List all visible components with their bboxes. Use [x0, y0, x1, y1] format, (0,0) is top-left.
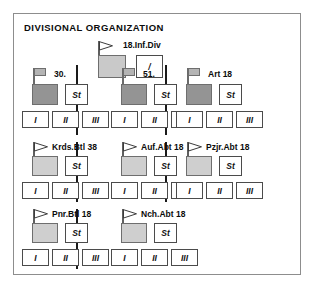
battalion-box: III	[82, 182, 109, 199]
independent-unit-hq-box	[121, 223, 147, 243]
regiment-label: 30.	[54, 69, 66, 79]
regiment-staff-box: St	[65, 84, 88, 105]
pennant-flag-icon	[33, 142, 50, 156]
pennant-flag-icon	[33, 209, 50, 223]
battalion-box: I	[176, 111, 203, 128]
battalion-box: II	[141, 249, 168, 266]
divisional-organization-panel: DIVISIONAL ORGANIZATION 18.Inf.Div / 30.…	[13, 13, 301, 275]
battalion-box: I	[22, 111, 49, 128]
battalion-box: III	[171, 249, 198, 266]
battalion-box: III	[82, 111, 109, 128]
independent-unit-staff-box: St	[154, 156, 177, 176]
pennant-flag-icon	[98, 41, 115, 55]
pennant-flag-icon	[122, 209, 139, 223]
battalion-box: III	[236, 111, 263, 128]
pennant-flag-icon	[122, 142, 139, 156]
regiment-hq-box	[186, 84, 212, 105]
battalion-box: I	[111, 182, 138, 199]
division-label: 18.Inf.Div	[123, 40, 161, 50]
independent-unit-staff-box: St	[219, 156, 242, 176]
independent-unit-staff-box: St	[154, 223, 177, 243]
page-title: DIVISIONAL ORGANIZATION	[24, 22, 164, 33]
regiment-staff-box: St	[154, 84, 177, 105]
regiment-hq-box	[32, 84, 58, 105]
independent-unit-staff-box: St	[65, 223, 88, 243]
battalion-box: I	[22, 249, 49, 266]
independent-unit-label: Krds.Btl 38	[52, 142, 97, 152]
battalion-box: I	[176, 182, 203, 199]
battalion-box: I	[111, 249, 138, 266]
independent-unit-label: Auf.Abt 18	[141, 142, 184, 152]
battalion-box: II	[141, 111, 168, 128]
battalion-box: II	[52, 111, 79, 128]
independent-unit-hq-box	[121, 156, 147, 176]
battalion-box: II	[52, 182, 79, 199]
independent-unit-label: Pzjr.Abt 18	[206, 142, 249, 152]
battalion-box: II	[206, 111, 233, 128]
battalion-box: III	[82, 249, 109, 266]
independent-unit-label: Nch.Abt 18	[141, 209, 185, 219]
battalion-box: III	[236, 182, 263, 199]
regiment-label: 51.	[143, 69, 155, 79]
independent-unit-hq-box	[32, 156, 58, 176]
independent-unit-staff-box: St	[65, 156, 88, 176]
pennant-flag-icon	[187, 142, 204, 156]
regiment-staff-box: St	[219, 84, 242, 105]
battalion-box: I	[22, 182, 49, 199]
battalion-box: II	[52, 249, 79, 266]
independent-unit-label: Pnr.Btl 18	[52, 209, 91, 219]
regiment-label: Art 18	[208, 69, 232, 79]
battalion-box: II	[206, 182, 233, 199]
regiment-hq-box	[121, 84, 147, 105]
independent-unit-hq-box	[186, 156, 212, 176]
independent-unit-hq-box	[32, 223, 58, 243]
battalion-box: II	[141, 182, 168, 199]
battalion-box: I	[111, 111, 138, 128]
